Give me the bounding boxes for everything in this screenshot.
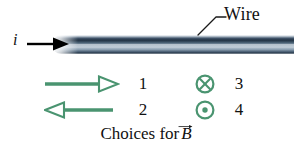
figure-caption: Choices for B [0, 124, 294, 144]
physics-figure: i Wire 1 3 [0, 0, 294, 159]
caption-vector-b: B [179, 124, 193, 144]
wire-label: Wire [224, 4, 260, 25]
choice-glyph-2 [44, 100, 129, 120]
choice-row-2: 2 4 [44, 97, 259, 123]
circle-cross-green-icon [194, 73, 216, 95]
choice-row-1: 1 3 [44, 71, 259, 97]
arrow-right-hollow-green-icon [44, 74, 120, 94]
wire-graphic [52, 35, 294, 54]
current-symbol: i [13, 31, 17, 49]
arrow-left-hollow-green-icon [44, 100, 120, 120]
choice-number-2: 2 [129, 100, 163, 120]
vector-arrow-icon [178, 122, 192, 130]
wire-highlight [52, 44, 294, 49]
choice-number-3: 3 [225, 74, 259, 94]
caption-prefix: Choices for [100, 124, 179, 143]
choice-glyph-1 [44, 74, 129, 94]
choice-glyph-4 [185, 99, 225, 121]
circle-dot-green-icon [194, 99, 216, 121]
current-arrow-icon [27, 36, 69, 52]
choice-glyph-3 [185, 73, 225, 95]
choice-number-4: 4 [225, 100, 259, 120]
choice-number-1: 1 [129, 74, 163, 94]
